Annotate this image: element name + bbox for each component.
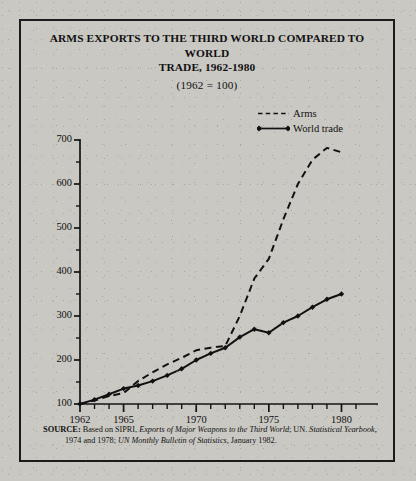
x-axis-tick-label: 1975 [253, 414, 285, 425]
series-marker-world-trade [150, 378, 155, 383]
source-label: SOURCE: [43, 425, 81, 434]
source-line-2: 1974 and 1978; UN Monthly Bulletin of St… [43, 436, 381, 447]
series-marker-world-trade [77, 401, 82, 406]
y-axis-tick-label: 500 [40, 221, 72, 232]
x-axis-tick-label: 1965 [108, 414, 140, 425]
y-axis-tick-label: 600 [40, 177, 72, 188]
series-line-world-trade [80, 294, 342, 404]
figure-frame: ARMS EXPORTS TO THE THIRD WORLD COMPARED… [19, 19, 395, 462]
source-text-a: Based on SIPRI, [83, 425, 139, 434]
source-text-g: January 1982. [229, 436, 277, 445]
y-axis-tick-label: 200 [40, 353, 72, 364]
source-text-e: 1974 and 1978; [65, 436, 118, 445]
source-text-d: Statistical Yearbook, [309, 425, 376, 434]
source-note: SOURCE: Based on SIPRI, Exports of Major… [43, 425, 381, 446]
chart-plot-area [21, 21, 397, 421]
source-text-f: UN Monthly Bulletin of Statistics, [118, 436, 229, 445]
y-axis-tick-label: 100 [40, 397, 72, 408]
series-line-arms [80, 148, 342, 404]
y-axis-tick-label: 700 [40, 133, 72, 144]
source-text-b: Exports of Major Weapons to the Third Wo… [139, 425, 289, 434]
y-axis-tick-label: 300 [40, 309, 72, 320]
source-text-c: ; UN. [289, 425, 309, 434]
x-axis-tick-label: 1970 [180, 414, 212, 425]
y-axis-tick-label: 400 [40, 265, 72, 276]
figure-page: ARMS EXPORTS TO THE THIRD WORLD COMPARED… [0, 0, 416, 481]
series-marker-world-trade [339, 291, 344, 296]
x-axis-tick-label: 1980 [325, 414, 357, 425]
x-axis-tick-label: 1962 [64, 414, 96, 425]
